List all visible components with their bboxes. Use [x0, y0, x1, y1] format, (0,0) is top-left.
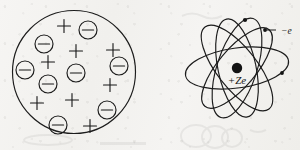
negative-charge — [67, 64, 85, 82]
atomic-models-figure: +Ze −e — [0, 0, 300, 150]
atom-boundary-circle — [13, 11, 136, 134]
positive-charge — [104, 79, 117, 92]
negative-charge — [110, 57, 128, 75]
negative-charge — [98, 101, 116, 119]
positive-charge — [58, 20, 71, 33]
negative-charge — [16, 61, 34, 79]
negative-charge — [35, 35, 53, 53]
rutherford-bohr-diagram: +Ze −e — [183, 12, 292, 123]
electron-charge-label: −e — [281, 26, 292, 36]
electron-dot — [280, 71, 284, 75]
positive-charge — [70, 45, 83, 58]
positive-charge — [107, 44, 120, 57]
nucleus-dot — [232, 63, 242, 73]
thomson-plum-pudding-diagram — [13, 11, 136, 135]
nucleus-charge-label: +Ze — [228, 74, 247, 86]
negative-charge — [79, 21, 97, 39]
figure-canvas: +Ze −e — [0, 0, 300, 150]
positive-charge — [42, 56, 55, 69]
negative-charge — [39, 75, 57, 93]
positive-charge — [31, 97, 44, 110]
electron-dot — [243, 18, 247, 22]
positive-charge — [66, 94, 79, 107]
